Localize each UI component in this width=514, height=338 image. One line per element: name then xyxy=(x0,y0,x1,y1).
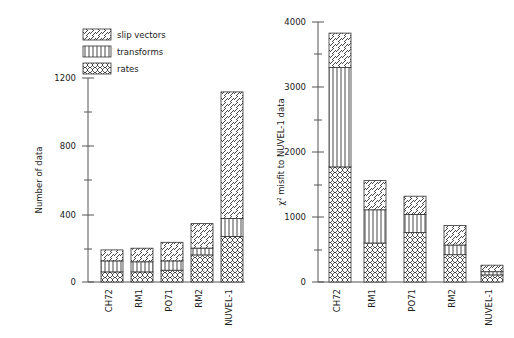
left-bar-ch72-slip-vectors xyxy=(101,250,123,261)
left-bar-ch72-transforms xyxy=(101,261,123,272)
legend-label-transforms: transforms xyxy=(117,47,164,57)
right-ytick-1000: 1000 xyxy=(284,212,306,222)
left-bar-rm2-rates xyxy=(191,255,213,282)
left-bar-po71-slip-vectors xyxy=(161,242,183,261)
right-bar-rm1-slip-vectors xyxy=(364,181,386,210)
right-bar-nuvel-1-transforms xyxy=(481,272,503,275)
left-xtick-nuvel-1: NUVEL-1 xyxy=(224,289,234,326)
right-bars xyxy=(329,33,503,282)
legend-label-slip-vectors: slip vectors xyxy=(117,30,166,40)
right-bar-nuvel-1-rates xyxy=(481,275,503,282)
right-bar-ch72-slip-vectors xyxy=(329,33,351,67)
legend-swatch-slip-vectors xyxy=(83,29,111,40)
right-ytick-3000: 3000 xyxy=(284,82,306,92)
right-bar-nuvel-1-slip-vectors xyxy=(481,265,503,272)
right-bar-rm2-slip-vectors xyxy=(444,226,466,246)
left-bars xyxy=(101,92,243,282)
figure-svg: slip vectors transforms rates xyxy=(0,0,514,338)
right-bar-rm1 xyxy=(364,181,386,282)
legend-label-rates: rates xyxy=(117,64,139,74)
right-bar-ch72-transforms xyxy=(329,68,351,167)
right-xtick-nuvel-1: NUVEL-1 xyxy=(484,289,494,326)
right-bar-rm1-transforms xyxy=(364,210,386,243)
right-panel: 4000 3000 2000 1000 0 χ² misfit to NUVEL… xyxy=(276,17,503,326)
right-ytick-4000: 4000 xyxy=(284,17,306,27)
left-ytick-800: 800 xyxy=(60,141,76,151)
right-ytick-0: 0 xyxy=(301,277,306,287)
left-xtick-ch72: CH72 xyxy=(104,289,114,312)
right-xtick-po71: PO71 xyxy=(407,289,417,312)
left-bar-rm1 xyxy=(131,248,153,282)
left-bar-nuvel-1 xyxy=(221,92,243,282)
left-bar-po71-rates xyxy=(161,270,183,282)
left-panel: slip vectors transforms rates xyxy=(34,29,245,326)
left-bar-po71-transforms xyxy=(161,261,183,270)
right-ytick-2000: 2000 xyxy=(284,147,306,157)
left-ytick-1200: 1200 xyxy=(54,73,76,83)
legend-item-slip-vectors: slip vectors xyxy=(83,29,166,40)
left-y-tick-labels: 1200 800 400 0 xyxy=(54,73,76,287)
right-xtick-rm1: RM1 xyxy=(367,289,377,308)
right-bar-po71-transforms xyxy=(404,214,426,232)
left-bar-nuvel-1-rates xyxy=(221,236,243,282)
left-ytick-0: 0 xyxy=(71,277,76,287)
right-xtick-rm2: RM2 xyxy=(447,289,457,308)
right-bar-rm1-rates xyxy=(364,243,386,282)
left-bar-rm1-slip-vectors xyxy=(131,248,153,262)
right-bar-po71-rates xyxy=(404,233,426,282)
left-bar-rm2 xyxy=(191,224,213,282)
left-x-tick-labels: CH72 RM1 PO71 RM2 NUVEL-1 xyxy=(104,289,234,326)
left-xtick-po71: PO71 xyxy=(164,289,174,312)
left-bar-nuvel-1-slip-vectors xyxy=(221,92,243,219)
legend: slip vectors transforms rates xyxy=(83,29,166,74)
right-xtick-ch72: CH72 xyxy=(332,289,342,312)
right-y-axis-title: χ² misfit to NUVEL-1 data xyxy=(276,98,286,205)
left-bar-nuvel-1-transforms xyxy=(221,219,243,237)
left-bar-ch72 xyxy=(101,250,123,282)
right-bar-ch72-rates xyxy=(329,167,351,282)
right-bar-nuvel-1 xyxy=(481,265,503,282)
legend-swatch-rates xyxy=(83,63,111,74)
legend-item-transforms: transforms xyxy=(83,46,164,57)
right-bar-ch72 xyxy=(329,33,351,282)
legend-item-rates: rates xyxy=(83,63,139,74)
right-bar-rm2 xyxy=(444,226,466,283)
left-bar-rm2-slip-vectors xyxy=(191,224,213,249)
left-bar-ch72-rates xyxy=(101,272,123,282)
left-bar-po71 xyxy=(161,242,183,282)
right-y-tick-labels: 4000 3000 2000 1000 0 xyxy=(284,17,306,287)
left-y-axis-title: Number of data xyxy=(34,147,44,214)
left-bar-rm1-transforms xyxy=(131,262,153,272)
right-bar-po71 xyxy=(404,196,426,282)
left-ytick-400: 400 xyxy=(60,210,76,220)
right-x-tick-labels: CH72 RM1 PO71 RM2 NUVEL-1 xyxy=(332,289,494,326)
left-xtick-rm1: RM1 xyxy=(134,289,144,308)
right-bar-rm2-transforms xyxy=(444,245,466,255)
right-bar-rm2-rates xyxy=(444,255,466,282)
left-bar-rm2-transforms xyxy=(191,248,213,255)
left-bar-rm1-rates xyxy=(131,272,153,282)
left-xtick-rm2: RM2 xyxy=(194,289,204,308)
legend-swatch-transforms xyxy=(83,46,111,57)
figure-container: slip vectors transforms rates xyxy=(0,0,514,338)
right-bar-po71-slip-vectors xyxy=(404,196,426,214)
